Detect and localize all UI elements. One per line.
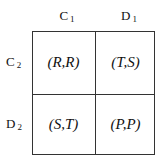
column-letter: C — [59, 8, 68, 23]
row-letter: C — [6, 54, 15, 69]
cell-c2-d1: (T,S) — [95, 32, 156, 93]
row-letter: D — [6, 116, 15, 131]
payoff-matrix: (R,R) (T,S) (S,T) (P,P) — [32, 31, 155, 155]
column-subscript: 1 — [70, 14, 75, 24]
row-label-c2: C2 — [6, 54, 28, 70]
cell-c2-c1: (R,R) — [33, 32, 94, 93]
column-label-c1: C1 — [47, 8, 87, 24]
column-subscript: 1 — [132, 14, 137, 24]
cell-d2-c1: (S,T) — [33, 94, 94, 155]
cell-d2-d1: (P,P) — [95, 94, 156, 155]
column-label-d1: D1 — [109, 8, 149, 24]
column-letter: D — [121, 8, 130, 23]
row-subscript: 2 — [17, 60, 22, 70]
row-subscript: 2 — [17, 122, 22, 132]
row-label-d2: D2 — [6, 116, 28, 132]
